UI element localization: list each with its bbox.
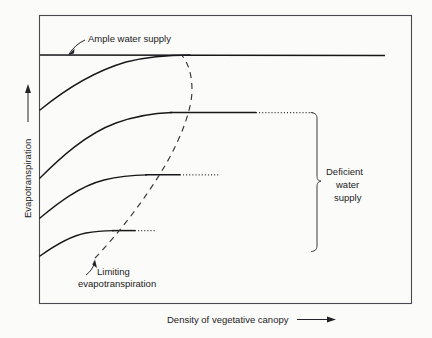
x-axis-arrowhead [327, 317, 336, 323]
limiting-evapotranspiration-label-line1: Limiting [97, 266, 130, 277]
series-ample-water-supply-line [40, 55, 385, 56]
series-curve-2 [40, 113, 172, 179]
figure-container: Ample water supply Limiting evapotranspi… [0, 0, 432, 338]
evapotranspiration-chart: Ample water supply Limiting evapotranspi… [0, 0, 432, 338]
plot-frame [40, 16, 412, 304]
deficient-water-supply-label-line2: water [335, 179, 359, 190]
series-curve-3 [40, 175, 147, 218]
y-axis-arrowhead [25, 84, 31, 93]
series-curve-4 [40, 231, 114, 256]
deficient-water-supply-label-line1: Deficient [326, 166, 363, 177]
series-curve-1 [40, 55, 190, 110]
ample-water-supply-label: Ample water supply [88, 33, 171, 44]
deficient-water-supply-label-line3: supply [334, 192, 362, 203]
limiting-evapotranspiration-label-line2: evapotranspiration [78, 278, 156, 289]
x-axis-label: Density of vegetative canopy [167, 314, 289, 325]
y-axis-label: Evapotranspiration [22, 139, 33, 218]
deficient-water-supply-brace [311, 113, 321, 252]
series-limiting-evapotranspiration-dashed [95, 56, 192, 259]
